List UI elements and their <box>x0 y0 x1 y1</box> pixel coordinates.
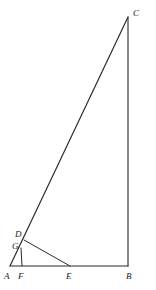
segments-group <box>10 17 128 266</box>
segment-GF <box>21 248 22 266</box>
vertex-label-f: F <box>18 272 24 281</box>
vertex-label-c: C <box>133 9 139 18</box>
vertex-label-b: B <box>126 272 132 281</box>
vertex-label-d: D <box>15 230 22 239</box>
geometry-figure: ABCDEFG <box>0 0 156 290</box>
vertex-label-e: E <box>66 272 72 281</box>
vertex-label-a: A <box>4 272 10 281</box>
segment-AC <box>10 17 128 266</box>
vertex-label-g: G <box>12 242 19 251</box>
figure-canvas <box>0 0 156 290</box>
segment-DE <box>24 240 70 266</box>
